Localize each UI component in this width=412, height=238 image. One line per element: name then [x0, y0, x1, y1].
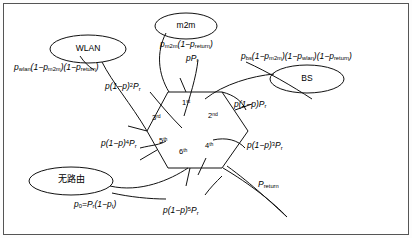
- ordinal-1st-suffix: st: [186, 98, 190, 104]
- ordinal-5th: 5th: [159, 137, 167, 145]
- leader-p0: [112, 193, 166, 199]
- node-label-wlan: WLAN: [50, 44, 126, 53]
- edge-label-p-pr: pPr: [186, 54, 198, 63]
- ordinal-1st: 1st: [182, 99, 190, 107]
- figure-canvas: m2m WLAN BS 无路由 pwlan(1−pm2m)(1−preturn)…: [0, 0, 412, 238]
- edge-bs-to-core: [205, 74, 274, 99]
- edge-noroute-to-core: [110, 168, 188, 188]
- edge-label-p-0: p0=Pr(1−pt): [74, 200, 116, 209]
- node-label-m2m: m2m: [155, 21, 217, 30]
- edge-label-p-wlan: pwlan(1−pm2m)(1−preturn): [14, 63, 99, 72]
- hexagon-core: [147, 92, 248, 168]
- diagram-vectors: [0, 0, 412, 238]
- leader-p3: [213, 139, 245, 148]
- leader-p2: [150, 92, 182, 128]
- node-label-noroute: 无路由: [29, 175, 113, 184]
- spoke-5th: [140, 150, 157, 160]
- ordinal-3rd: 3rd: [152, 114, 161, 122]
- ordinal-6th-suffix: th: [183, 147, 187, 153]
- edge-return-loop: [223, 166, 287, 217]
- edge-label-p-return: Preturn: [258, 180, 279, 189]
- edge-label-p-m2m: pm2m(1−preturn): [160, 40, 213, 49]
- ordinal-2nd-suffix: nd: [212, 111, 218, 117]
- edge-wlan-to-core: [102, 62, 147, 131]
- edge-label-p-bs: pbs(1−pm2m)(1−pwlan)(1−preturn): [241, 52, 352, 61]
- ordinal-3rd-suffix: rd: [156, 113, 161, 119]
- ordinal-4th-suffix: th: [209, 141, 213, 147]
- ordinal-6th: 6th: [179, 148, 187, 156]
- spoke-4th: [198, 158, 206, 175]
- leader-p5: [205, 176, 222, 195]
- ordinal-4th: 4th: [205, 142, 213, 150]
- ordinal-2nd: 2nd: [208, 112, 218, 120]
- node-label-bs: BS: [270, 74, 344, 83]
- edge-label-p-1: p(1−p)Pr: [234, 100, 266, 109]
- edge-label-p-3: p(1−p)3Pr: [247, 141, 283, 151]
- edge-label-p-4: p(1−p)4Pr: [101, 139, 137, 149]
- leader-p-pr: [184, 60, 198, 116]
- spoke-6th: [186, 168, 190, 186]
- edge-label-p-2: p(1−p)2Pr: [105, 82, 141, 92]
- spoke-1st: [180, 78, 186, 92]
- ordinal-5th-suffix: th: [163, 136, 167, 142]
- edge-label-p-5: p(1−p)5Pr: [163, 206, 199, 216]
